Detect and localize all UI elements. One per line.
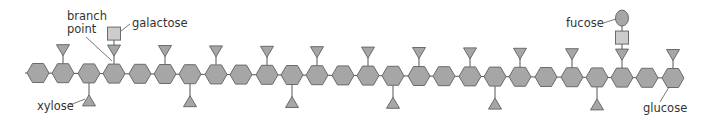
glucose-hexagon-icon xyxy=(382,66,404,85)
glucose-hexagon-icon xyxy=(78,64,100,83)
xylose-triangle-icon xyxy=(591,99,604,110)
labels: branch point galactose xylose fucose glu… xyxy=(37,9,687,115)
glucose-hexagon-icon xyxy=(281,66,303,85)
glucose-hexagon-icon xyxy=(154,65,176,84)
xylose-triangle-icon xyxy=(184,96,197,107)
glucose-hexagon-icon xyxy=(586,68,608,87)
galactose-square-icon xyxy=(616,31,629,44)
glucose-hexagon-icon xyxy=(52,64,74,83)
xylose-triangle-icon xyxy=(210,46,223,57)
branch-point-label-line1: branch xyxy=(67,9,107,23)
xylose-triangle-icon xyxy=(83,95,96,106)
xylose-triangle-icon xyxy=(57,45,70,56)
glucose-label: glucose xyxy=(643,101,687,115)
galactose-square-icon xyxy=(108,27,121,40)
glucose-hexagon-icon xyxy=(357,66,379,85)
glucose-hexagon-icon xyxy=(27,64,49,83)
glucose-hexagon-icon xyxy=(179,65,201,84)
glucose-hexagon-icon xyxy=(256,65,278,84)
glucose-hexagon-icon xyxy=(611,68,633,87)
glucose-hexagon-icon xyxy=(636,68,658,87)
glucose-hexagon-icon xyxy=(459,67,481,86)
galactose-leader xyxy=(121,24,130,31)
xylose-triangle-icon xyxy=(286,97,299,108)
fucose-label: fucose xyxy=(566,16,604,30)
glucose-hexagon-icon xyxy=(535,68,557,87)
fucose-ellipse-icon xyxy=(616,10,629,26)
glucose-hexagon-icon xyxy=(129,64,151,83)
glucose-hexagon-icon xyxy=(484,67,506,86)
glucose-hexagon-icon xyxy=(408,67,430,86)
glucose-hexagon-icon xyxy=(509,67,531,86)
glucose-hexagon-icon xyxy=(433,67,455,86)
glucose-hexagon-icon xyxy=(332,66,354,85)
xylose-triangle-icon xyxy=(159,46,172,57)
branch-point-label-line2: point xyxy=(67,22,97,36)
xylose-triangle-icon xyxy=(311,47,324,58)
branch-point-leader xyxy=(86,37,112,61)
xylose-triangle-icon xyxy=(616,49,629,60)
xylose-triangle-icon xyxy=(464,48,477,59)
glucose-hexagon-icon xyxy=(205,65,227,84)
xylose-triangle-icon xyxy=(514,48,527,59)
xylose-triangle-icon xyxy=(667,50,680,61)
glucose-leader xyxy=(660,87,669,102)
xylose-triangle-icon xyxy=(489,98,502,109)
xyloglucan-diagram: branch point galactose xylose fucose glu… xyxy=(0,0,706,123)
xylose-label: xylose xyxy=(37,99,74,113)
glucose-hexagon-icon xyxy=(103,64,125,83)
xylose-triangle-icon xyxy=(108,45,121,56)
glucose-hexagon-icon xyxy=(230,65,252,84)
xylose-triangle-icon xyxy=(261,46,274,57)
xylose-triangle-icon xyxy=(362,47,375,58)
glucose-hexagon-icon xyxy=(561,68,583,87)
xylose-triangle-icon xyxy=(387,97,400,108)
glucose-hexagon-icon xyxy=(306,66,328,85)
glucose-hexagon-icon xyxy=(662,69,684,88)
galactose-label: galactose xyxy=(132,16,188,30)
xylose-triangle-icon xyxy=(566,49,579,60)
xylose-triangle-icon xyxy=(413,48,426,59)
